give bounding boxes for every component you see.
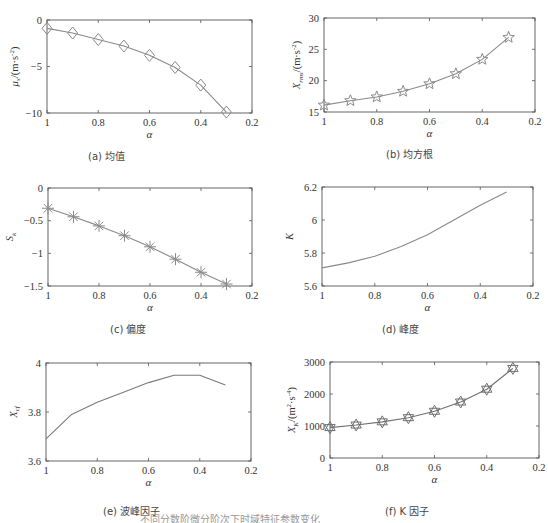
hexagram-marker (403, 412, 413, 421)
hexagram-marker (508, 362, 518, 371)
x-axis-label: α (432, 473, 438, 485)
figure-caption-partial: 不同分数阶微分阶次下时域特征参数变化 (140, 511, 470, 523)
plot-frame (330, 362, 539, 458)
hexagram-marker (377, 416, 387, 425)
hexagram-marker (508, 365, 518, 374)
hexagram-marker (351, 422, 361, 431)
hexagram-marker (377, 419, 387, 428)
y-tick-label: 3000 (304, 357, 325, 368)
x-tick-label: 0.4 (480, 462, 494, 473)
caption-b: (b) 均方根 (386, 146, 433, 161)
y-tick-label: 0 (320, 453, 325, 464)
x-tick-label: 1 (327, 462, 332, 473)
y-tick-label: 1000 (304, 421, 325, 432)
y-tick-label: 2000 (304, 389, 325, 400)
caption-c: (c) 偏度 (110, 321, 146, 336)
x-tick-label: 0.2 (532, 462, 545, 473)
markers (325, 362, 518, 433)
x-tick-label: 0.8 (376, 462, 389, 473)
hexagram-marker (403, 415, 413, 424)
data-line (330, 368, 513, 427)
caption-a: (a) 均值 (88, 148, 125, 163)
y-axis-label: XK/(m2·s-4) (285, 386, 300, 434)
hexagram-marker (351, 419, 361, 428)
x-tick-label: 0.6 (428, 462, 441, 473)
caption-d: (d) 峰度 (382, 321, 419, 336)
